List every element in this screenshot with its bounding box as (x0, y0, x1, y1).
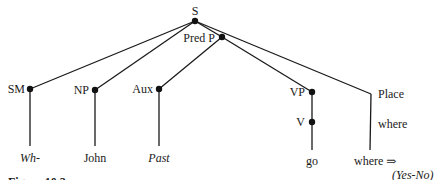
leaf-past: Past (147, 151, 170, 165)
node-label-v: V (296, 115, 305, 129)
leaf-yes-no: (Yes-No) (392, 168, 434, 180)
edge-s-sm (30, 21, 195, 89)
node-label-place-word: where (378, 117, 407, 131)
node-dot-s (192, 18, 198, 24)
edge-place-where (370, 94, 371, 150)
node-dots (27, 18, 315, 125)
edge-s-place (195, 21, 371, 94)
node-label-s: S (192, 4, 199, 18)
node-label-predp: Pred P (183, 31, 215, 45)
syntax-tree: S Pred P SM NP Aux VP V Place where Wh- … (0, 0, 438, 180)
node-dot-aux (156, 86, 162, 92)
node-label-place: Place (378, 87, 404, 101)
node-dot-vp (309, 89, 315, 95)
leaf-john: John (84, 151, 107, 165)
node-label-sm: SM (8, 82, 26, 96)
figure-caption: Figure 10.3 (8, 175, 66, 180)
node-dot-sm (27, 86, 33, 92)
node-label-np: NP (74, 83, 90, 97)
node-dot-v (309, 119, 315, 125)
node-label-aux: Aux (132, 82, 153, 96)
leaf-wh: Wh- (20, 151, 40, 165)
leaf-where-transform: where ⇒ (354, 154, 396, 168)
node-label-vp: VP (290, 85, 306, 99)
node-dot-predp (219, 34, 225, 40)
leaf-go: go (306, 154, 318, 168)
node-dot-np (92, 87, 98, 93)
